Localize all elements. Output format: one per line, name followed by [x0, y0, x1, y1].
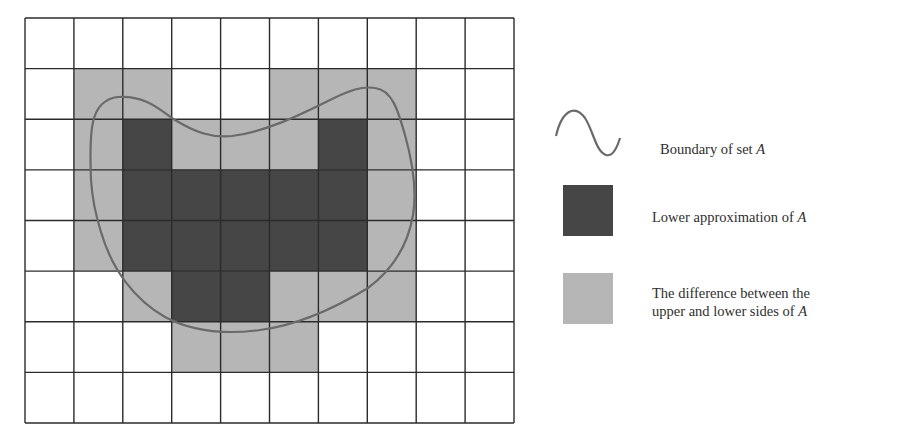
set-symbol: A — [798, 303, 807, 319]
empty-cell — [416, 372, 465, 423]
boundary-region-cell — [270, 322, 319, 373]
empty-cell — [25, 69, 74, 120]
empty-cell — [25, 322, 74, 373]
boundary-region-cell — [270, 69, 319, 120]
boundary-region-cell — [123, 271, 172, 322]
lower-approximation-cell — [270, 221, 319, 272]
empty-cell — [25, 170, 74, 221]
empty-cell — [465, 170, 514, 221]
empty-cell — [416, 221, 465, 272]
legend-wave-icon — [556, 111, 620, 156]
empty-cell — [74, 372, 123, 423]
boundary-region-cell — [270, 119, 319, 170]
legend-text: Boundary of set — [660, 141, 756, 157]
legend-text: Lower approximation of — [652, 209, 797, 225]
lower-approximation-cell — [172, 221, 221, 272]
boundary-region-cell — [74, 170, 123, 221]
boundary-region-cell — [74, 69, 123, 120]
empty-cell — [318, 322, 367, 373]
empty-cell — [25, 18, 74, 69]
empty-cell — [123, 322, 172, 373]
empty-cell — [416, 18, 465, 69]
lower-approximation-cell — [318, 119, 367, 170]
lower-approximation-cell — [123, 221, 172, 272]
lower-approximation-cell — [318, 170, 367, 221]
empty-cell — [416, 69, 465, 120]
boundary-region-cell — [74, 119, 123, 170]
empty-cell — [123, 372, 172, 423]
empty-cell — [74, 271, 123, 322]
empty-cell — [416, 322, 465, 373]
legend-label-boundary-region: The difference between the upper and low… — [652, 284, 810, 320]
empty-cell — [416, 271, 465, 322]
empty-cell — [416, 119, 465, 170]
empty-cell — [172, 18, 221, 69]
empty-cell — [318, 372, 367, 423]
boundary-region-cell — [367, 69, 416, 120]
lower-approximation-cell — [172, 170, 221, 221]
legend-label-lower-approximation: Lower approximation of A — [652, 208, 806, 226]
empty-cell — [367, 18, 416, 69]
empty-cell — [270, 18, 319, 69]
lower-approximation-cell — [221, 221, 270, 272]
legend-dark-square-icon — [563, 185, 613, 236]
boundary-region-cell — [367, 271, 416, 322]
boundary-region-cell — [367, 119, 416, 170]
lower-approximation-cell — [221, 271, 270, 322]
boundary-region-cell — [74, 221, 123, 272]
empty-cell — [221, 69, 270, 120]
empty-cell — [74, 322, 123, 373]
legend-text-line1: The difference between the — [652, 284, 810, 302]
empty-cell — [465, 271, 514, 322]
boundary-region-cell — [221, 119, 270, 170]
empty-cell — [25, 372, 74, 423]
legend-light-square-icon — [563, 273, 613, 324]
empty-cell — [465, 69, 514, 120]
boundary-region-cell — [318, 271, 367, 322]
boundary-region-cell — [172, 119, 221, 170]
empty-cell — [318, 18, 367, 69]
empty-cell — [416, 170, 465, 221]
empty-cell — [465, 221, 514, 272]
empty-cell — [465, 18, 514, 69]
empty-cell — [25, 119, 74, 170]
legend-text-line2: upper and lower sides of A — [652, 302, 810, 320]
empty-cell — [172, 69, 221, 120]
empty-cell — [25, 221, 74, 272]
empty-cell — [270, 372, 319, 423]
empty-cell — [221, 372, 270, 423]
boundary-region-cell — [270, 271, 319, 322]
empty-cell — [221, 18, 270, 69]
lower-approximation-cell — [270, 170, 319, 221]
empty-cell — [74, 18, 123, 69]
empty-cell — [465, 119, 514, 170]
empty-cell — [367, 372, 416, 423]
empty-cell — [172, 372, 221, 423]
lower-approximation-cell — [123, 170, 172, 221]
lower-approximation-cell — [318, 221, 367, 272]
empty-cell — [367, 322, 416, 373]
empty-cell — [465, 372, 514, 423]
empty-cell — [25, 271, 74, 322]
set-symbol: A — [756, 141, 765, 157]
lower-approximation-cell — [221, 170, 270, 221]
legend-label-boundary: Boundary of set A — [660, 140, 765, 158]
legend-text: upper and lower sides of — [652, 303, 798, 319]
lower-approximation-cell — [172, 271, 221, 322]
empty-cell — [465, 322, 514, 373]
lower-approximation-cell — [123, 119, 172, 170]
set-symbol: A — [797, 209, 806, 225]
empty-cell — [123, 18, 172, 69]
boundary-region-cell — [367, 170, 416, 221]
